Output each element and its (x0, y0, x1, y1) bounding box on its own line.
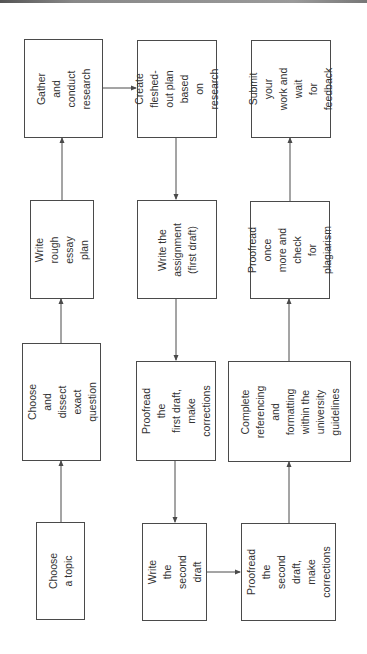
step-choose-topic: Choose a topic (36, 522, 85, 620)
step-proofread-second-draft: Proofread the second draft, make correct… (241, 523, 336, 621)
step-fleshed-out-plan: Create fleshed- out plan based on resear… (137, 40, 217, 138)
step-label: Proofread the second draft, make correct… (244, 546, 334, 597)
step-first-draft: Write the assignment (first draft) (137, 200, 217, 299)
step-second-draft: Write the second draft (142, 523, 207, 621)
step-label: Choose a topic (46, 553, 76, 589)
step-label: Write the assignment (first draft) (155, 223, 200, 277)
step-label: Proofread the first draft, make correcti… (139, 385, 214, 436)
step-plagiarism-check: Proofread once more and check for plagia… (250, 201, 330, 299)
step-label: Create fleshed- out plan based on resear… (132, 69, 222, 110)
step-proofread-first-draft: Proofread the first draft, make correcti… (136, 361, 216, 461)
flowchart-canvas: Gather and conduct research Write rough … (0, 0, 367, 654)
step-label: Write the second draft (145, 555, 205, 589)
step-label: Proofread once more and check for plagia… (245, 226, 335, 274)
step-dissect-question: Choose and dissect exact question (22, 343, 101, 461)
step-label: Write rough essay plan (32, 234, 92, 265)
step-label: Gather and conduct research (34, 68, 94, 109)
step-submit-work: Submit your work and wait for feedback (251, 40, 331, 138)
step-label: Submit your work and wait for feedback (246, 68, 336, 111)
step-gather-research: Gather and conduct research (24, 39, 103, 138)
step-referencing-formatting: Complete referencing and formatting with… (228, 361, 351, 462)
step-label: Choose and dissect exact question (24, 382, 99, 422)
step-label: Complete referencing and formatting with… (237, 381, 342, 442)
step-rough-essay-plan: Write rough essay plan (30, 200, 94, 299)
